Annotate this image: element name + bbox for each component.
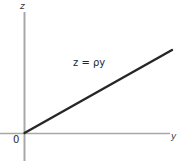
z-axis-label: z — [20, 2, 25, 11]
origin-label: 0 — [13, 135, 19, 145]
line-plot-figure: z y 0 z = ρy — [0, 0, 186, 167]
plot-canvas — [0, 0, 186, 167]
equation-annotation: z = ρy — [73, 58, 105, 68]
y-axis-label: y — [171, 132, 176, 141]
